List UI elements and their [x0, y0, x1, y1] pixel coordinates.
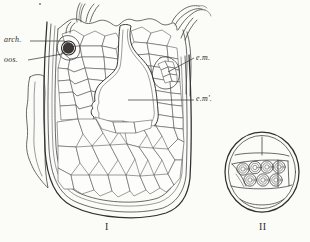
left-flap-crease — [34, 82, 42, 176]
illustration-plate: arch. oos. e.m. e.m'. I II — [0, 0, 310, 242]
fig2-cell — [270, 174, 282, 186]
filament-branch-c2 — [185, 20, 197, 40]
fig2-cell — [249, 161, 261, 173]
fig2-cell-row-lower — [244, 174, 282, 186]
left-filament-cluster — [77, 3, 99, 22]
fig2-cell — [261, 161, 273, 173]
fig2-band-shading — [236, 174, 244, 187]
label-embryo-inner: e.m'. — [196, 94, 212, 103]
figure-two-group — [225, 132, 299, 212]
figure-two-caption: II — [259, 221, 267, 232]
fig2-band-right — [288, 161, 289, 186]
fig2-cell — [244, 174, 256, 186]
left-integument-flap — [26, 75, 48, 188]
label-embryo-outer: e.m. — [196, 53, 210, 62]
filament-tip-b — [205, 10, 211, 16]
print-speck — [39, 3, 41, 5]
figure-one-caption: I — [105, 221, 109, 232]
fig2-cell — [237, 163, 249, 175]
fig2-lower-partition — [231, 185, 292, 189]
fig2-cell — [273, 161, 285, 173]
fig2-cell — [257, 174, 269, 186]
upper-left-margin — [58, 19, 120, 29]
label-archegonium: arch. — [4, 35, 21, 44]
filament-tip-a — [199, 6, 207, 8]
figure-one-group — [26, 3, 211, 218]
label-oospore: oos. — [4, 55, 18, 64]
plate-vector — [0, 0, 310, 242]
